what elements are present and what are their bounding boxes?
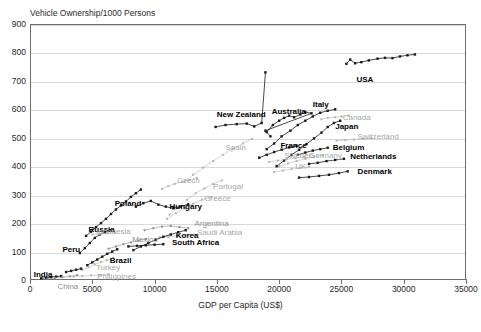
data-point — [167, 185, 169, 187]
data-point — [116, 248, 118, 250]
data-point — [308, 176, 310, 178]
data-point — [376, 58, 378, 60]
data-point — [319, 148, 321, 150]
data-point — [312, 115, 314, 117]
series-label-denmark: Denmark — [358, 168, 392, 176]
series-label-czech: Czech — [177, 177, 200, 185]
series-label-uk: UK — [295, 163, 306, 171]
series-line — [299, 171, 348, 177]
data-point — [145, 244, 147, 246]
data-point — [94, 237, 96, 239]
data-point — [327, 126, 329, 128]
data-point — [368, 59, 370, 61]
data-point — [96, 258, 98, 260]
series-argentina — [144, 225, 190, 231]
data-point — [202, 167, 204, 169]
series-label-mexico: Mexico — [132, 236, 157, 244]
data-point — [90, 274, 92, 276]
data-point — [345, 63, 347, 65]
series-label-china: China — [57, 283, 78, 291]
data-point — [275, 165, 277, 167]
data-point — [327, 110, 329, 112]
data-point — [283, 117, 285, 119]
data-point — [251, 138, 253, 140]
data-point — [169, 214, 171, 216]
data-point — [273, 151, 275, 153]
data-point — [167, 236, 169, 238]
data-point — [174, 183, 176, 185]
data-point — [84, 247, 86, 249]
data-point — [150, 200, 152, 202]
data-point — [268, 161, 270, 163]
series-label-hungary: Hungary — [170, 203, 202, 211]
series-label-germany: Germany — [309, 152, 342, 160]
data-point — [122, 243, 124, 245]
data-point — [265, 148, 267, 150]
series-label-spain: Spain — [226, 144, 246, 152]
data-point — [110, 213, 112, 215]
data-point — [304, 120, 306, 122]
series-label-peru: Peru — [62, 246, 80, 254]
series-label-argentina: Argentina — [194, 220, 228, 228]
data-point — [162, 236, 164, 238]
data-point — [384, 57, 386, 59]
data-point — [293, 116, 295, 118]
series-label-portugal: Portugal — [213, 183, 243, 191]
data-point — [349, 58, 351, 60]
series-line — [346, 54, 415, 63]
series-peru — [65, 267, 82, 273]
data-point — [406, 54, 408, 56]
data-point — [132, 249, 134, 251]
data-point — [153, 244, 155, 246]
data-point — [325, 160, 327, 162]
data-point — [91, 261, 93, 263]
data-point — [327, 117, 329, 119]
data-point — [136, 245, 138, 247]
series-label-netherlands: Netherlands — [350, 153, 396, 161]
data-point — [54, 277, 56, 279]
series-usa — [345, 53, 416, 65]
data-point — [75, 269, 77, 271]
series-label-philippines: Philippines — [97, 273, 136, 281]
data-point — [203, 187, 205, 189]
data-point — [278, 120, 280, 122]
data-point — [261, 122, 263, 124]
data-point — [101, 255, 103, 257]
series-label-india: India — [34, 271, 53, 279]
data-point — [106, 259, 108, 261]
data-point — [81, 275, 83, 277]
series-label-greece: Greece — [204, 195, 230, 203]
data-point — [80, 267, 82, 269]
data-point — [236, 123, 238, 125]
data-point — [178, 226, 180, 228]
data-point — [127, 245, 129, 247]
data-point — [170, 225, 172, 227]
data-point — [353, 138, 355, 140]
data-point — [135, 192, 137, 194]
data-point — [264, 129, 266, 131]
chart-root: Vehicle Ownership/1000 Persons 010020030… — [0, 0, 481, 332]
data-point — [69, 275, 71, 277]
data-point — [115, 245, 117, 247]
data-point — [195, 192, 197, 194]
data-point — [165, 205, 167, 207]
data-point — [277, 160, 279, 162]
data-point — [161, 226, 163, 228]
series-label-sweden: Sweden — [284, 152, 313, 160]
data-point — [273, 171, 275, 173]
data-point — [170, 233, 172, 235]
series-label-france: France — [280, 142, 306, 150]
data-point — [297, 124, 299, 126]
data-point — [142, 202, 144, 204]
data-point — [76, 274, 78, 276]
data-point — [414, 53, 416, 55]
data-point — [115, 208, 117, 210]
data-point — [308, 163, 310, 165]
data-point — [278, 165, 280, 167]
data-point — [313, 137, 315, 139]
data-point — [308, 166, 310, 168]
data-point — [144, 229, 146, 231]
data-point — [212, 160, 214, 162]
data-point — [399, 55, 401, 57]
data-point — [70, 270, 72, 272]
